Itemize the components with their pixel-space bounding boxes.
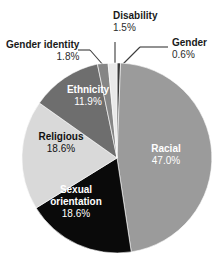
slice-label-racial: Racial 47.0% [137,143,195,167]
slice-label-sexual-orientation-line2: orientation [32,196,120,208]
slice-value-gender: 0.6% [172,49,207,61]
slice-label-religious: Religious 18.6% [26,131,96,155]
slice-value-racial: 47.0% [137,155,195,167]
leader-lines [78,42,168,66]
slice-value-ethnicity: 11.9% [57,96,119,108]
slice-value-sexual-orientation: 18.6% [32,208,120,220]
slice-label-disability-name: Disability [113,10,157,21]
slice-value-gender-identity: 1.8% [6,51,79,63]
slice-label-religious-name: Religious [38,131,83,142]
slice-label-gender-identity: Gender identity 1.8% [6,39,79,62]
slice-label-racial-name: Racial [151,143,180,154]
slice-label-ethnicity-name: Ethnicity [67,84,109,95]
slice-label-sexual-orientation-line1: Sexual [60,184,92,195]
slice-label-gender-identity-name: Gender identity [6,39,79,50]
leader-line-gender [122,47,140,65]
slice-value-religious: 18.6% [26,143,96,155]
slice-label-disability: Disability 1.5% [113,10,157,33]
slice-label-ethnicity: Ethnicity 11.9% [57,84,119,108]
slice-label-gender: Gender 0.6% [172,37,207,60]
slice-label-sexual-orientation: Sexual orientation 18.6% [32,184,120,220]
slice-value-disability: 1.5% [113,22,157,34]
slice-label-gender-name: Gender [172,37,207,48]
pie-chart-figure: ANTI-BIAS INCIDENTS BY CATEGORY [0,0,224,269]
